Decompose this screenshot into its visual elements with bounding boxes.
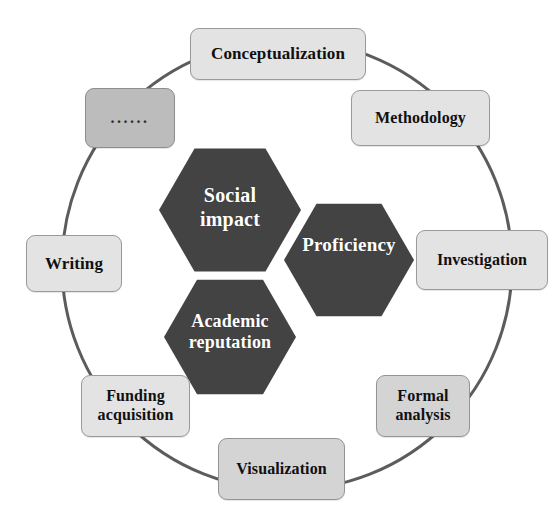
- stage-node-funding-acquisition[interactable]: Funding acquisition: [81, 375, 190, 437]
- stage-node-investigation[interactable]: Investigation: [416, 230, 548, 290]
- ellipsis-icon: ......: [111, 109, 150, 128]
- stage-node-label: Funding acquisition: [98, 387, 174, 424]
- stage-node-label: Writing: [45, 254, 103, 274]
- stage-node-label: Investigation: [437, 251, 527, 270]
- diagram-canvas: Social impact Proficiency Academic reput…: [0, 0, 556, 517]
- stage-node-writing[interactable]: Writing: [26, 235, 122, 292]
- stage-node-label-line-1: Formal: [397, 387, 448, 404]
- stage-node-ellipsis[interactable]: ......: [85, 88, 175, 148]
- stage-node-label: Visualization: [236, 460, 327, 479]
- stage-node-formal-analysis[interactable]: Formal analysis: [376, 375, 470, 437]
- stage-node-label-line-2: analysis: [395, 406, 450, 423]
- stage-node-label: Methodology: [375, 109, 466, 128]
- stage-node-conceptualization[interactable]: Conceptualization: [190, 28, 366, 80]
- stage-node-label: Formal analysis: [395, 387, 450, 424]
- hexagon-social-impact[interactable]: [159, 149, 301, 272]
- stage-node-label-line-2: acquisition: [98, 406, 174, 423]
- stage-node-methodology[interactable]: Methodology: [351, 90, 490, 146]
- stage-node-visualization[interactable]: Visualization: [218, 438, 345, 500]
- stage-node-label-line-1: Funding: [106, 387, 165, 404]
- stage-node-label: Conceptualization: [211, 44, 345, 64]
- hexagon-proficiency[interactable]: [284, 204, 414, 317]
